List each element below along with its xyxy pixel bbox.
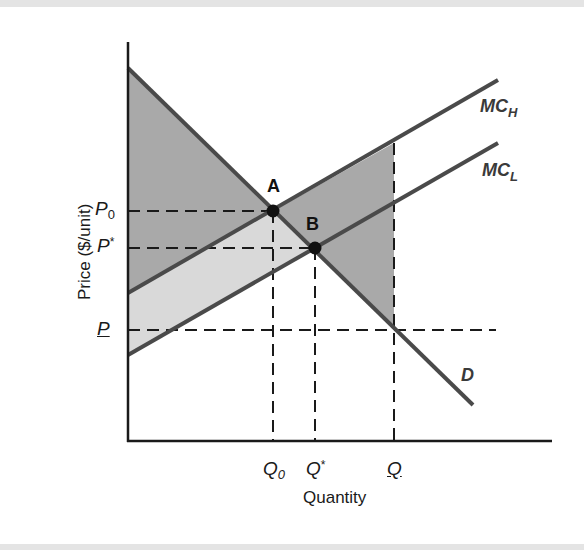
quantity-tick-qbar: Q: [387, 458, 402, 480]
demand-label: D: [461, 365, 474, 386]
price-tick-p0: P0: [95, 198, 115, 222]
point-a-marker: [267, 205, 280, 218]
quantity-tick-qstar: Q*: [306, 458, 325, 480]
x-axis-label: Quantity: [303, 488, 366, 508]
price-tick-pstar: P*: [97, 235, 114, 257]
point-a-label: A: [267, 176, 280, 197]
point-b-label: B: [306, 214, 319, 235]
y-axis-label: Price ($/unit): [75, 204, 95, 300]
point-b-marker: [309, 242, 322, 255]
mcl-label: MCL: [482, 160, 518, 184]
price-tick-pbar: P: [97, 318, 110, 340]
mch-label: MCH: [480, 96, 517, 120]
quantity-tick-q0: Q0: [263, 458, 285, 482]
